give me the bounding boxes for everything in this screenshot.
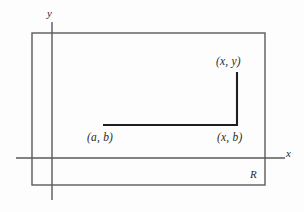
point-label-x-b: (x, b)	[217, 132, 242, 144]
point-label-x-y: (x, y)	[216, 56, 241, 68]
diagram-canvas	[0, 0, 304, 212]
point-label-a-b: (a, b)	[87, 132, 113, 144]
region-label-r: R	[250, 169, 257, 180]
x-axis-label: x	[286, 148, 291, 159]
l-shaped-path	[103, 72, 237, 125]
y-axis-label: y	[47, 8, 52, 19]
math-diagram-figure: y x R (x, y) (a, b) (x, b)	[0, 0, 304, 212]
